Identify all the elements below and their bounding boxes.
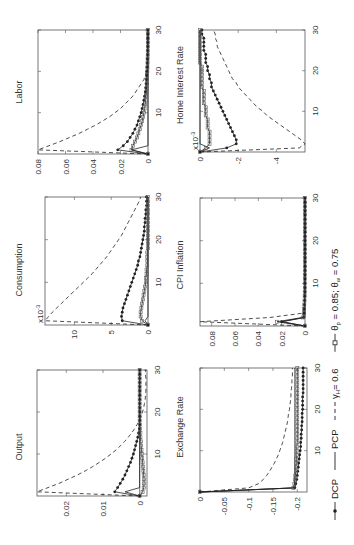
data-point-asterisk: [201, 33, 204, 36]
plot-frame: [37, 370, 147, 496]
value-tick-label: 5: [107, 329, 116, 334]
data-point-asterisk: [214, 94, 217, 97]
data-point-asterisk: [129, 461, 132, 464]
series-theta_p: [130, 29, 150, 156]
data-point-asterisk: [125, 298, 128, 301]
data-point-asterisk: [202, 37, 205, 40]
value-tick-label: 0: [136, 500, 145, 505]
data-point-asterisk: [138, 115, 141, 118]
data-point-asterisk: [302, 371, 305, 374]
data-point-asterisk: [113, 490, 116, 493]
data-point-asterisk: [302, 383, 305, 386]
data-point-asterisk: [202, 49, 205, 52]
value-tick-label: 0.01: [99, 500, 108, 516]
data-point-asterisk: [129, 285, 132, 288]
value-tick-label: -2: [234, 156, 243, 164]
figure: 00.020.040.060.08102030Labor0510102030x1…: [0, 0, 354, 545]
data-point-asterisk: [120, 315, 123, 318]
value-tick-label: 0.02: [278, 330, 287, 346]
data-point-asterisk: [143, 225, 146, 228]
series-line: [200, 30, 305, 152]
data-point-asterisk: [121, 311, 124, 314]
value-tick-label: 0.02: [117, 158, 126, 174]
value-tick-label: 0.08: [34, 158, 43, 174]
time-tick-label: 20: [311, 66, 320, 75]
series-dcp: [199, 29, 238, 154]
series-dcp: [199, 367, 305, 494]
data-point-asterisk: [121, 478, 124, 481]
series-line: [282, 198, 305, 326]
data-point-asterisk: [133, 272, 136, 275]
time-tick-label: 30: [311, 25, 320, 34]
time-tick-label: 10: [311, 106, 320, 115]
data-point-asterisk: [301, 400, 304, 403]
data-point-asterisk: [302, 367, 305, 370]
plot-frame: [200, 368, 307, 492]
legend-label: θp = 0.85; θw = 0.75: [329, 249, 341, 331]
data-point-asterisk: [227, 122, 230, 125]
data-point-asterisk: [235, 142, 238, 145]
axis-scale-label: x10-3: [35, 304, 45, 323]
data-point-asterisk: [206, 65, 209, 68]
time-tick-label: 10: [154, 108, 163, 117]
data-point-asterisk: [132, 277, 135, 280]
series-line: [141, 197, 148, 325]
data-point-asterisk: [131, 132, 134, 135]
data-point-asterisk: [225, 147, 228, 150]
time-tick-label: 30: [154, 192, 163, 201]
series-pcp: [282, 198, 305, 326]
data-point-asterisk: [139, 255, 142, 258]
panel-title: CPI Inflation: [175, 240, 185, 289]
legend-entry-gamma_h: γH= 0.6: [329, 369, 341, 421]
series-line: [118, 30, 148, 154]
data-point-asterisk: [300, 424, 303, 427]
data-point-asterisk: [135, 440, 138, 443]
data-point-asterisk: [299, 449, 302, 452]
value-tick-label: 0.04: [89, 158, 98, 174]
data-point-asterisk: [126, 294, 129, 297]
data-point-asterisk: [137, 260, 140, 263]
time-tick-label: 10: [311, 278, 320, 287]
data-point-asterisk: [295, 478, 298, 481]
data-point-asterisk: [210, 86, 213, 89]
data-point-asterisk: [298, 453, 301, 456]
data-point-asterisk: [123, 302, 126, 305]
data-point-asterisk: [201, 29, 204, 32]
series-line: [200, 30, 210, 152]
panel-title: Home Interest Rate: [175, 46, 185, 124]
data-point-asterisk: [301, 412, 304, 415]
series-line: [37, 370, 146, 496]
panel-title: Output: [14, 433, 24, 461]
data-point-asterisk: [137, 120, 140, 123]
data-point-asterisk: [208, 77, 211, 80]
data-point-asterisk: [124, 474, 127, 477]
panel-output: 00.010.02102030Output: [14, 365, 162, 517]
data-point-asterisk: [296, 470, 299, 473]
series-dcp: [113, 369, 141, 498]
data-point-asterisk: [141, 243, 144, 246]
data-point-asterisk: [218, 102, 221, 105]
data-point-asterisk: [204, 57, 207, 60]
series-pcp: [200, 30, 210, 152]
time-tick-label: 10: [154, 277, 163, 286]
panel-exchange-rate: 0-0.05-0.1-0.15-0.2102030Exchange Rate: [175, 363, 322, 515]
data-point-asterisk: [235, 138, 238, 141]
series-line: [45, 197, 148, 325]
data-point-asterisk: [302, 379, 305, 382]
data-point-asterisk: [300, 433, 303, 436]
value-tick-label: 0: [301, 330, 310, 335]
data-point-asterisk: [302, 391, 305, 394]
series-gamma_h: [37, 370, 146, 496]
data-point-asterisk: [302, 375, 305, 378]
data-point-asterisk: [144, 221, 147, 224]
value-tick-label: 0: [196, 496, 205, 501]
time-tick-label: 10: [313, 446, 322, 455]
data-point-asterisk: [136, 124, 139, 127]
panel-cpi-inflation: 00.020.040.060.08102030CPI Inflation: [175, 193, 320, 347]
time-tick-label: 30: [154, 25, 163, 34]
data-point-asterisk: [301, 404, 304, 407]
data-point-asterisk: [142, 234, 145, 237]
data-point-asterisk: [296, 474, 299, 477]
value-tick-label: 0.06: [231, 330, 240, 346]
data-point-asterisk: [119, 482, 122, 485]
